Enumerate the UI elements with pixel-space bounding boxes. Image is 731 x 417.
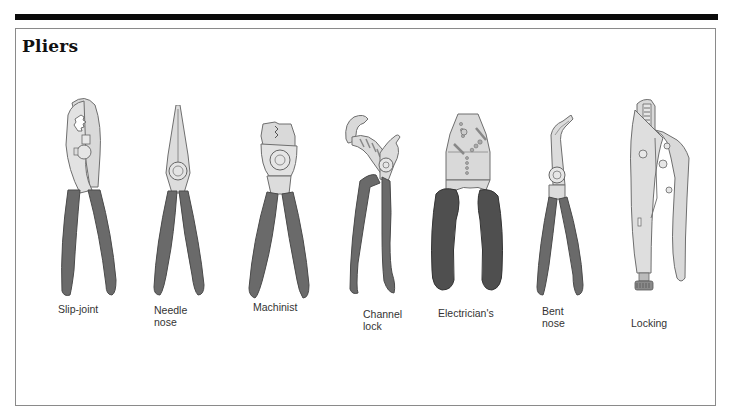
tool-needle-nose: Needle nose (150, 105, 215, 305)
tool-label: Channel lock (363, 308, 402, 332)
tool-channel-lock: Channel lock (340, 113, 420, 313)
tool-label: Machinist (253, 301, 297, 313)
tool-bent-nose: Bent nose (535, 115, 595, 310)
tool-label: Needle nose (154, 304, 187, 328)
tool-label: Bent nose (542, 305, 565, 329)
page-title: Pliers (22, 36, 78, 56)
tool-label: Locking (631, 317, 667, 329)
tool-machinist: Machinist (245, 120, 315, 310)
tool-label: Electrician's (438, 307, 494, 319)
top-rule (15, 14, 718, 20)
tool-electricians: Electrician's (430, 110, 510, 305)
channel-lock-pliers-icon (340, 113, 420, 313)
slip-joint-pliers-icon (50, 95, 130, 305)
locking-pliers-icon (615, 98, 705, 303)
tool-label: Slip-joint (58, 303, 98, 315)
needle-nose-pliers-icon (150, 105, 215, 305)
bent-nose-pliers-icon (535, 115, 595, 310)
machinist-pliers-icon (245, 120, 315, 310)
tool-locking: Locking (615, 98, 705, 303)
tool-slip-joint: Slip-joint (50, 95, 130, 305)
electricians-pliers-icon (430, 110, 510, 305)
